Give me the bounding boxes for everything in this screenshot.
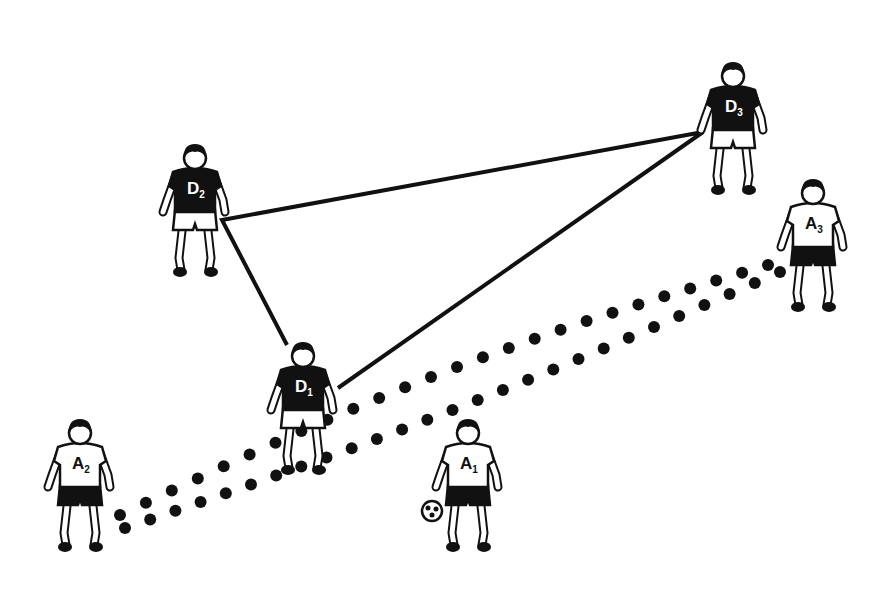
- path-dot: [698, 299, 710, 311]
- player-d3: D3: [701, 62, 763, 195]
- path-dot: [114, 509, 126, 521]
- path-dot: [346, 442, 358, 454]
- path-dot: [295, 461, 307, 473]
- path-dot: [447, 404, 459, 416]
- path-dot: [547, 364, 559, 376]
- path-dot: [119, 522, 131, 534]
- player-d2: D2: [163, 144, 225, 277]
- path-dot: [598, 342, 610, 354]
- path-dot: [658, 290, 670, 302]
- path-dot: [245, 478, 257, 490]
- path-dot: [607, 307, 619, 319]
- path-dot: [573, 353, 585, 365]
- player-a1: A1: [436, 419, 498, 552]
- path-dot: [472, 394, 484, 406]
- path-dot: [724, 288, 736, 300]
- path-dot: [451, 361, 463, 373]
- path-dot: [710, 275, 722, 287]
- path-dot: [623, 332, 635, 344]
- path-dot: [774, 266, 786, 278]
- path-dot: [684, 282, 696, 294]
- path-dot: [347, 403, 359, 415]
- path-dot: [373, 392, 385, 404]
- path-dot: [421, 414, 433, 426]
- path-dot: [648, 321, 660, 333]
- path-dot: [673, 310, 685, 322]
- upper-pass-line: [114, 259, 774, 521]
- soccer-diagram: D1D2D3A1A2A3: [0, 0, 884, 606]
- path-dot: [169, 505, 181, 517]
- players: D1D2D3A1A2A3: [48, 62, 843, 552]
- path-dot: [749, 277, 761, 289]
- path-dot: [522, 374, 534, 386]
- path-dot: [736, 267, 748, 279]
- path-dot: [396, 423, 408, 435]
- player-a2: A2: [48, 419, 110, 552]
- path-dot: [195, 496, 207, 508]
- path-dot: [399, 381, 411, 393]
- path-dot: [270, 470, 282, 482]
- path-dot: [371, 433, 383, 445]
- path-dot: [477, 351, 489, 363]
- path-dot: [581, 315, 593, 327]
- path-dot: [270, 437, 282, 449]
- path-dot: [140, 497, 152, 509]
- path-dot: [497, 384, 509, 396]
- path-dot: [555, 324, 567, 336]
- path-dot: [220, 487, 232, 499]
- path-dot: [144, 513, 156, 525]
- path-dot: [425, 371, 437, 383]
- path-dot: [218, 460, 230, 472]
- soccer-ball-icon: [422, 501, 442, 521]
- path-dot: [762, 259, 774, 271]
- path-dot: [632, 298, 644, 310]
- path-dot: [192, 472, 204, 484]
- player-a3: A3: [781, 179, 843, 312]
- path-dot: [529, 333, 541, 345]
- path-dot: [503, 342, 515, 354]
- path-dot: [166, 485, 178, 497]
- path-dot: [244, 448, 256, 460]
